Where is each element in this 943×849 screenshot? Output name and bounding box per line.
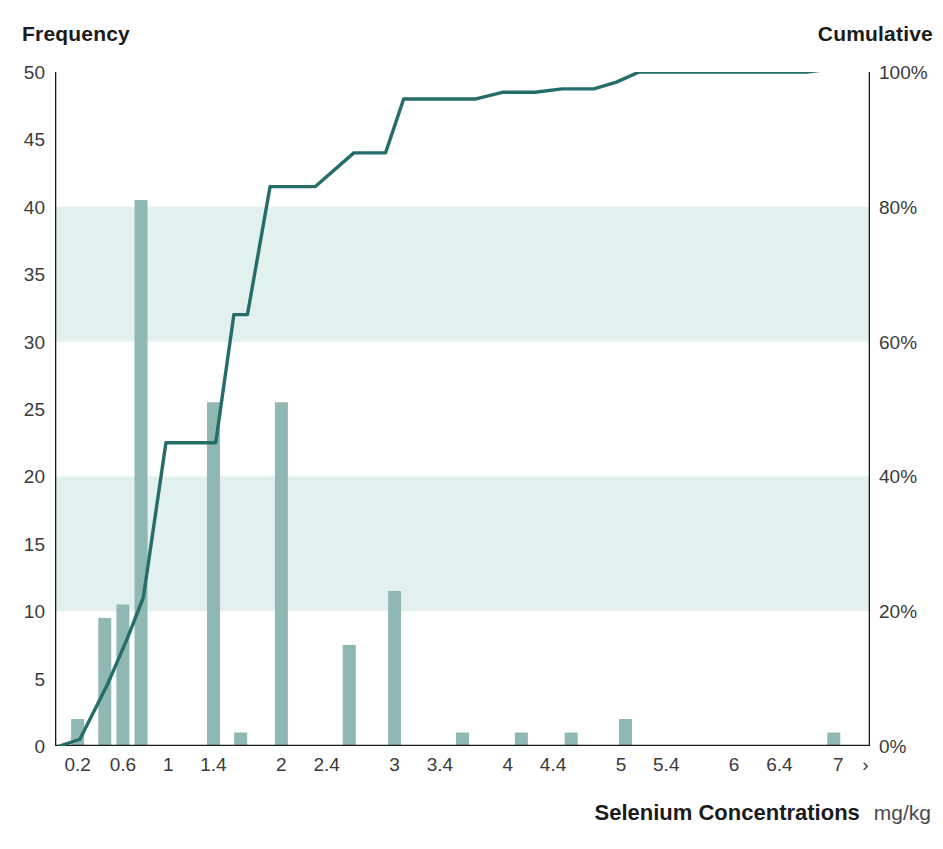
x-axis-tick-label: › [862, 755, 868, 774]
bar [515, 733, 528, 746]
y-axis-left-tick-label: 45 [24, 130, 45, 149]
y-axis-left-tick-label: 0 [34, 737, 45, 756]
x-axis-tick-label: 6 [729, 755, 740, 774]
cumulative-line [60, 72, 870, 746]
axis-frame [55, 72, 870, 746]
x-axis-tick-label: 7 [833, 755, 844, 774]
x-axis-tick-label: 3.4 [427, 755, 453, 774]
right-axis-header: Cumulative [818, 22, 933, 46]
x-axis-title-text: Selenium Concentrations [595, 800, 860, 825]
cumulative-line-group [60, 72, 870, 746]
x-axis-tick-label: 4.4 [540, 755, 566, 774]
y-axis-left-tick-label: 25 [24, 400, 45, 419]
y-axis-left-tick-label: 5 [34, 669, 45, 688]
bar [565, 733, 578, 746]
y-axis-left-tick-label: 30 [24, 332, 45, 351]
y-axis-right-tick-label: 60% [879, 332, 917, 351]
y-axis-left-ticks: 05101520253035404550 [0, 72, 45, 746]
bar [827, 733, 840, 746]
bar [135, 200, 148, 746]
shaded-band [55, 476, 870, 611]
y-axis-right-tick-label: 20% [879, 602, 917, 621]
plot-area [55, 72, 870, 746]
bar [456, 733, 469, 746]
x-axis-tick-label: 5 [616, 755, 627, 774]
y-axis-right-tick-label: 0% [879, 737, 906, 756]
bar [207, 402, 220, 746]
y-axis-left-tick-label: 40 [24, 197, 45, 216]
y-axis-right-ticks: 0%20%40%60%80%100% [879, 72, 943, 746]
x-axis-ticks: 0.20.611.422.433.444.455.466.47› [55, 755, 870, 785]
y-axis-right-tick-label: 100% [879, 63, 928, 82]
x-axis-tick-label: 6.4 [766, 755, 792, 774]
x-axis-title-unit: mg/kg [874, 801, 931, 824]
y-axis-right-tick-label: 80% [879, 197, 917, 216]
x-axis-tick-label: 4 [502, 755, 513, 774]
bar [275, 402, 288, 746]
left-axis-header: Frequency [22, 22, 130, 46]
x-axis-tick-label: 3 [389, 755, 400, 774]
bar [343, 645, 356, 746]
bar [388, 591, 401, 746]
x-axis-tick-label: 0.6 [110, 755, 136, 774]
x-axis-tick-label: 5.4 [653, 755, 679, 774]
x-axis-title: Selenium Concentrationsmg/kg [595, 800, 931, 826]
y-axis-right-tick-label: 40% [879, 467, 917, 486]
x-axis-tick-label: 2.4 [313, 755, 339, 774]
shaded-bands-group [55, 207, 870, 611]
chart-canvas [55, 72, 870, 746]
y-axis-left-tick-label: 20 [24, 467, 45, 486]
bar [116, 604, 129, 746]
x-axis-tick-label: 0.2 [64, 755, 90, 774]
y-axis-left-tick-label: 15 [24, 534, 45, 553]
x-axis-tick-label: 1 [163, 755, 174, 774]
bar [234, 733, 247, 746]
x-axis-tick-label: 1.4 [200, 755, 226, 774]
y-axis-left-tick-label: 35 [24, 265, 45, 284]
y-axis-left-tick-label: 50 [24, 63, 45, 82]
y-axis-left-tick-label: 10 [24, 602, 45, 621]
shaded-band [55, 207, 870, 342]
chart-figure: Frequency Cumulative 0510152025303540455… [0, 0, 943, 849]
axis-lines-group [55, 72, 870, 746]
x-axis-tick-label: 2 [276, 755, 287, 774]
bar [619, 719, 632, 746]
